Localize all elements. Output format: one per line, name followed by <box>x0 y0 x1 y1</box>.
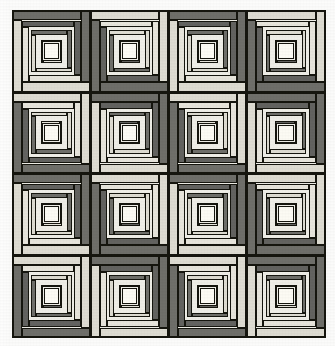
log-strip-left <box>256 109 263 163</box>
log-strip-right <box>74 184 80 238</box>
block-r1-c3[interactable] <box>247 93 325 175</box>
log-strip-left <box>100 190 106 244</box>
log-strip-top <box>13 256 81 265</box>
block-center-square <box>278 206 294 222</box>
block-r0-c3[interactable] <box>247 11 325 93</box>
log-strip-top <box>275 285 294 288</box>
log-strip-top <box>275 121 294 123</box>
log-strip-left <box>91 265 100 337</box>
log-strip-bottom <box>178 164 246 173</box>
block-center-square <box>200 125 215 141</box>
block-r3-c3[interactable] <box>247 256 325 338</box>
log-strip-right <box>67 275 71 313</box>
block-center-square <box>122 125 137 141</box>
log-strip-left <box>119 205 121 225</box>
log-strip-right <box>237 174 246 245</box>
block-center-square <box>122 43 137 59</box>
block-r0-c0[interactable] <box>13 11 91 93</box>
log-strip-left <box>13 265 22 337</box>
log-strip-left <box>91 102 100 173</box>
block-r2-c2[interactable] <box>169 174 247 256</box>
log-strip-bottom <box>36 149 72 154</box>
log-strip-right <box>159 11 168 82</box>
log-strip-top <box>169 174 237 183</box>
log-strip-top <box>100 265 152 272</box>
log-strip-left <box>109 280 113 318</box>
log-strip-left <box>22 27 28 81</box>
block-r0-c1[interactable] <box>91 11 169 93</box>
log-strip-left <box>169 20 178 91</box>
log-strip-bottom <box>270 313 306 318</box>
log-strip-left <box>119 124 121 144</box>
log-strip-bottom <box>43 142 62 144</box>
log-strip-right <box>60 40 62 60</box>
log-strip-left <box>41 124 43 144</box>
log-strip-right <box>216 40 218 60</box>
log-strip-right <box>309 102 316 156</box>
block-r2-c0[interactable] <box>13 174 91 256</box>
log-strip-top <box>178 265 230 272</box>
log-strip-right <box>302 112 306 149</box>
log-strip-bottom <box>29 157 81 164</box>
log-strip-right <box>138 285 140 305</box>
log-strip-bottom <box>270 231 306 236</box>
block-center-square <box>200 288 215 304</box>
block-r0-c2[interactable] <box>169 11 247 93</box>
log-strip-top <box>178 184 230 191</box>
log-strip-right <box>67 112 71 149</box>
log-strip-left <box>169 265 178 337</box>
block-center-square <box>278 288 294 304</box>
block-center-square <box>122 206 137 222</box>
block-r3-c1[interactable] <box>91 256 169 338</box>
block-r3-c2[interactable] <box>169 256 247 338</box>
log-strip-left <box>100 27 106 81</box>
log-strip-right <box>230 184 236 238</box>
log-strip-right <box>60 121 62 141</box>
log-strip-top <box>41 285 60 288</box>
log-strip-right <box>145 112 149 149</box>
block-r1-c1[interactable] <box>91 93 169 175</box>
block-r1-c0[interactable] <box>13 93 91 175</box>
log-strip-right <box>302 30 306 67</box>
log-strip-bottom <box>43 305 62 308</box>
log-strip-bottom <box>100 82 168 91</box>
log-strip-left <box>119 42 121 62</box>
log-strip-bottom <box>22 245 90 254</box>
log-strip-bottom <box>22 328 90 337</box>
log-strip-top <box>247 11 316 20</box>
log-strip-right <box>74 102 80 156</box>
log-strip-bottom <box>100 245 168 254</box>
log-strip-bottom <box>270 68 306 73</box>
block-r1-c2[interactable] <box>169 93 247 175</box>
block-center-square <box>200 206 215 222</box>
log-strip-top <box>197 285 216 288</box>
log-strip-top <box>109 275 145 280</box>
log-strip-top <box>197 40 216 42</box>
log-strip-bottom <box>192 68 228 73</box>
log-strip-right <box>67 30 71 67</box>
block-r2-c1[interactable] <box>91 174 169 256</box>
log-strip-bottom <box>256 164 325 173</box>
log-strip-bottom <box>185 320 237 327</box>
log-strip-bottom <box>114 149 150 154</box>
log-strip-right <box>138 121 140 141</box>
log-strip-top <box>41 121 60 123</box>
log-strip-left <box>187 280 191 318</box>
log-strip-top <box>247 174 316 183</box>
block-r3-c0[interactable] <box>13 256 91 338</box>
block-r2-c3[interactable] <box>247 174 325 256</box>
log-strip-bottom <box>277 305 296 308</box>
log-strip-right <box>316 174 325 245</box>
log-strip-right <box>74 21 80 75</box>
log-strip-right <box>145 30 149 67</box>
quilt-image-canvas <box>0 0 335 346</box>
log-strip-right <box>152 21 158 75</box>
quilt-block-grid <box>13 11 325 337</box>
log-strip-right <box>309 184 316 238</box>
log-strip-top <box>13 11 81 20</box>
log-strip-top <box>109 30 145 35</box>
log-strip-left <box>100 272 106 327</box>
log-strip-right <box>295 203 297 223</box>
log-strip-top <box>22 102 74 109</box>
log-strip-right <box>152 184 158 238</box>
